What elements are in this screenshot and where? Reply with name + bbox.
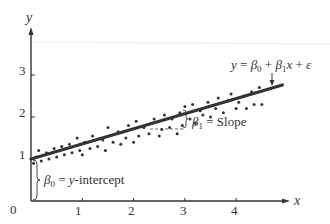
x-axis-arrow-icon <box>282 199 290 204</box>
y-tick-label-1: 1 <box>19 147 26 162</box>
data-point <box>88 147 91 150</box>
data-point <box>258 86 261 89</box>
data-point <box>55 155 58 158</box>
data-point <box>147 132 150 135</box>
data-point <box>96 145 99 148</box>
equation-label: y = β0 + β1x + ε <box>229 57 312 74</box>
data-point <box>81 153 84 156</box>
slope-label: β1 = Slope <box>191 114 247 131</box>
data-point <box>63 153 66 156</box>
data-point <box>91 134 94 137</box>
data-point <box>40 160 43 163</box>
data-point <box>119 143 122 146</box>
data-point <box>78 149 81 152</box>
x-tick-label-4: 4 <box>231 203 238 218</box>
data-point <box>32 162 35 165</box>
data-point <box>124 137 127 140</box>
data-point <box>237 101 240 104</box>
data-point <box>60 145 63 148</box>
data-point <box>230 92 233 95</box>
data-point <box>183 105 186 108</box>
y-axis-title: y <box>24 10 33 25</box>
data-point <box>235 107 238 110</box>
data-point <box>260 103 263 106</box>
data-point <box>253 103 256 106</box>
data-point <box>127 124 130 127</box>
x-tick-label-2: 2 <box>128 203 135 218</box>
data-point <box>181 124 184 127</box>
data-point <box>37 149 40 152</box>
data-point <box>245 107 248 110</box>
x-tick-label-3: 3 <box>180 203 187 218</box>
intercept-bracket-icon <box>33 160 40 200</box>
x-tick-label-1: 1 <box>75 203 82 218</box>
origin-label: 0 <box>10 202 17 217</box>
y-axis-arrow-icon <box>29 27 34 35</box>
equation-arrow-icon <box>270 80 275 86</box>
data-point <box>206 101 209 104</box>
data-point <box>191 103 194 106</box>
intercept-label: β0 = y-intercept <box>43 172 125 189</box>
data-point <box>135 120 138 123</box>
data-point <box>47 158 50 161</box>
data-point <box>71 151 74 154</box>
data-point <box>53 147 56 150</box>
scan-line <box>30 42 330 44</box>
data-point <box>112 141 115 144</box>
data-point <box>132 141 135 144</box>
data-point <box>176 132 179 135</box>
y-tick-label-2: 2 <box>19 105 26 120</box>
data-point <box>217 97 220 100</box>
data-point <box>158 134 161 137</box>
data-point <box>104 149 107 152</box>
data-point <box>163 113 166 116</box>
regression-chart: 0 1 2 3 4 1 2 3 y x β1 = Slope β0 = y-in… <box>0 0 330 224</box>
x-axis-title: x <box>293 193 301 208</box>
data-point <box>153 118 156 121</box>
data-point <box>137 134 140 137</box>
data-point <box>106 126 109 129</box>
data-point <box>68 143 71 146</box>
y-tick-label-3: 3 <box>19 63 26 78</box>
data-point <box>76 137 79 140</box>
data-point <box>214 107 217 110</box>
